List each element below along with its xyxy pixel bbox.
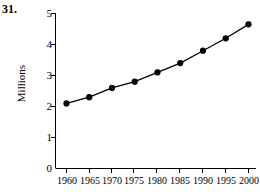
data-series-line <box>67 24 249 103</box>
y-tick-label-1: 1 <box>38 132 52 143</box>
data-point-1990 <box>200 48 206 54</box>
figure-container: 31. Millions 5 4 3 2 1 0 <box>0 0 260 192</box>
data-point-1975 <box>132 79 138 85</box>
y-tick-label-2: 2 <box>38 101 52 112</box>
data-point-1985 <box>177 60 183 66</box>
y-tick-label-3: 3 <box>38 70 52 81</box>
chart-plot-area: Millions 5 4 3 2 1 0 <box>0 0 260 192</box>
data-point-1960 <box>63 100 69 106</box>
y-tick-label-5: 5 <box>38 8 52 19</box>
data-series-markers <box>63 21 251 106</box>
data-point-2000 <box>245 21 251 27</box>
y-tick-label-0: 0 <box>38 163 52 174</box>
data-point-1965 <box>86 94 92 100</box>
x-tick-label-2000: 2000 <box>234 176 260 186</box>
y-axis-title: Millions <box>16 54 27 114</box>
data-point-1995 <box>223 35 229 41</box>
data-point-1970 <box>109 85 115 91</box>
y-tick-label-4: 4 <box>38 39 52 50</box>
x-axis <box>56 169 257 174</box>
y-axis <box>51 13 56 168</box>
data-point-1980 <box>154 69 160 75</box>
